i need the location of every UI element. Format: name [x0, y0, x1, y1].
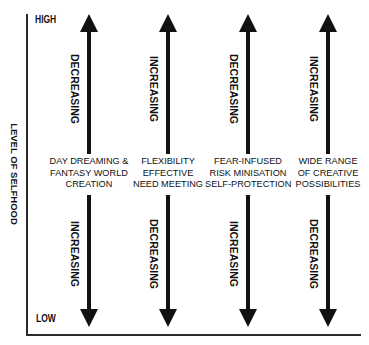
column-label: FLEXIBILITY EFFECTIVE NEED MEETING	[125, 156, 211, 191]
column-2: INCREASING FLEXIBILITY EFFECTIVE NEED ME…	[167, 0, 169, 345]
x-axis-line	[26, 334, 361, 336]
arrow-down-shaft	[326, 195, 330, 311]
column-label: WIDE RANGE OF CREATIVE POSSIBILITIES	[285, 156, 369, 191]
column-label-line: CREATION	[46, 179, 132, 191]
column-label-line: DAY DREAMING &	[46, 156, 132, 168]
column-label-line: FANTASY WORLD	[46, 168, 132, 180]
column-label: DAY DREAMING & FANTASY WORLD CREATION	[46, 156, 132, 191]
column-label: FEAR-INFUSED RISK MINISATION SELF-PROTEC…	[205, 156, 291, 191]
upper-trend-label: DECREASING	[228, 54, 240, 124]
arrow-down-head-icon	[319, 309, 337, 327]
column-label-line: WIDE RANGE	[285, 156, 369, 168]
arrow-down-shaft	[246, 195, 250, 311]
arrow-up-shaft	[326, 30, 330, 154]
y-axis-title: LEVEL OF SELFHOOD	[8, 104, 20, 244]
column-label-line: SELF-PROTECTION	[205, 179, 291, 191]
upper-trend-label: DECREASING	[69, 54, 81, 124]
column-label-line: POSSIBILITIES	[285, 179, 369, 191]
upper-trend-label: INCREASING	[308, 54, 320, 124]
column-label-line: FLEXIBILITY	[125, 156, 211, 168]
column-label-line: OF CREATIVE	[285, 168, 369, 180]
arrow-up-shaft	[87, 30, 91, 154]
upper-trend-label: INCREASING	[148, 54, 160, 124]
column-label-line: FEAR-INFUSED	[205, 156, 291, 168]
y-axis-line	[26, 14, 28, 336]
column-4: INCREASING WIDE RANGE OF CREATIVE POSSIB…	[327, 0, 329, 345]
lower-trend-label: INCREASING	[69, 219, 81, 289]
high-label: HIGH	[35, 14, 56, 25]
lower-trend-label: INCREASING	[228, 219, 240, 289]
arrow-down-head-icon	[80, 309, 98, 327]
arrow-down-shaft	[87, 195, 91, 311]
column-3: DECREASING FEAR-INFUSED RISK MINISATION …	[247, 0, 249, 345]
column-label-line: NEED MEETING	[125, 179, 211, 191]
lower-trend-label: DECREASING	[308, 219, 320, 289]
arrow-down-shaft	[166, 195, 170, 311]
column-label-line: EFFECTIVE	[125, 168, 211, 180]
low-label: LOW	[36, 313, 56, 324]
arrow-down-head-icon	[159, 309, 177, 327]
column-1: DECREASING DAY DREAMING & FANTASY WORLD …	[88, 0, 90, 345]
arrow-down-head-icon	[239, 309, 257, 327]
arrow-up-shaft	[166, 30, 170, 154]
lower-trend-label: DECREASING	[148, 219, 160, 289]
column-label-line: RISK MINISATION	[205, 168, 291, 180]
arrow-up-shaft	[246, 30, 250, 154]
